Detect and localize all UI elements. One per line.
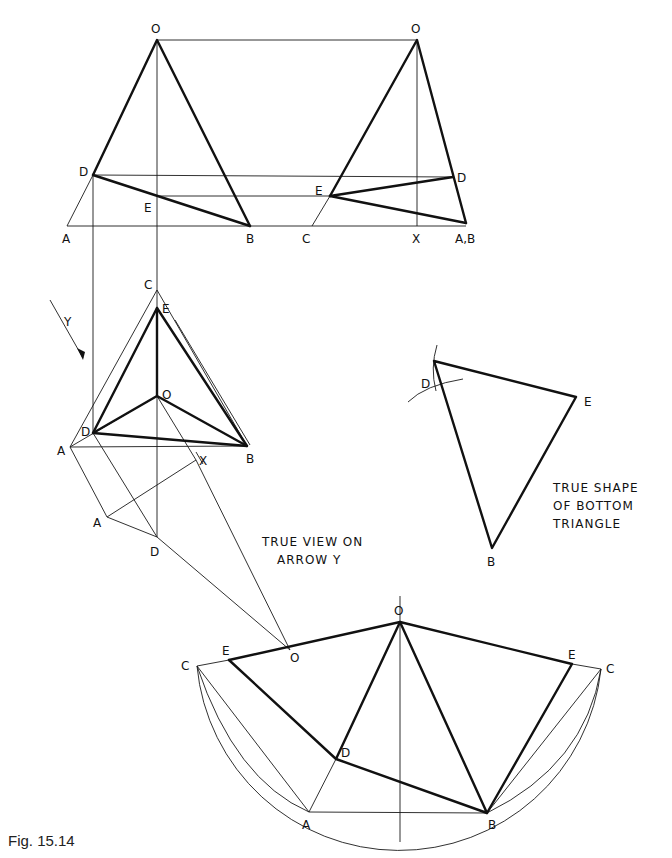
label-a: A: [57, 444, 66, 458]
label-x: X: [412, 232, 420, 246]
label-e: E: [144, 201, 152, 215]
label-a-b: A,B: [455, 232, 475, 246]
label-o: O: [394, 604, 403, 618]
development: O E C D A B E C: [181, 596, 614, 850]
label-d: D: [457, 171, 466, 185]
label-o: O: [162, 388, 171, 402]
note-line-1: TRUE SHAPE: [552, 481, 639, 495]
true-view-note: TRUE VIEW ON ARROW Y: [261, 535, 363, 567]
label-b: B: [246, 232, 254, 246]
figure-caption: Fig. 15.14: [8, 832, 75, 849]
label-b: B: [488, 818, 496, 832]
label-d: D: [421, 377, 430, 391]
label-e-right: E: [568, 648, 576, 662]
note-line-3: TRIANGLE: [552, 517, 621, 531]
label-e: E: [162, 302, 170, 316]
label-d: D: [341, 746, 350, 760]
label-c: C: [144, 278, 152, 292]
label-d: D: [81, 425, 90, 439]
label-c-right: C: [606, 662, 614, 676]
note-line-2: OF BOTTOM: [553, 499, 634, 513]
label-e-left: E: [222, 644, 230, 658]
arrow-y-head-icon: [77, 348, 85, 360]
label-e: E: [584, 395, 592, 409]
note-line-1: TRUE VIEW ON: [261, 535, 363, 549]
engineering-drawing: O D E A B O D E C X A,B: [0, 0, 672, 858]
note-line-2: ARROW Y: [277, 553, 341, 567]
label-d2: D: [150, 545, 159, 559]
front-elevation: O D E A B: [62, 22, 466, 433]
label-o: O: [411, 22, 420, 36]
label-x: X: [199, 454, 207, 468]
label-a: A: [302, 818, 311, 832]
true-shape-triangle: D E B TRUE SHAPE OF BOTTOM TRIANGLE: [408, 345, 639, 569]
label-e: E: [315, 184, 323, 198]
plan-view: Y C E O D A B X A D O: [50, 278, 299, 665]
label-o2: O: [290, 651, 299, 665]
label-b: B: [246, 452, 254, 466]
label-y: Y: [63, 315, 72, 329]
label-b: B: [487, 555, 495, 569]
end-elevation: O D E C X A,B: [302, 22, 475, 246]
label-a2: A: [93, 516, 102, 530]
label-d: D: [79, 165, 88, 179]
label-o: O: [151, 22, 160, 36]
label-c: C: [302, 232, 310, 246]
label-c-left: C: [181, 659, 189, 673]
label-a: A: [62, 232, 71, 246]
